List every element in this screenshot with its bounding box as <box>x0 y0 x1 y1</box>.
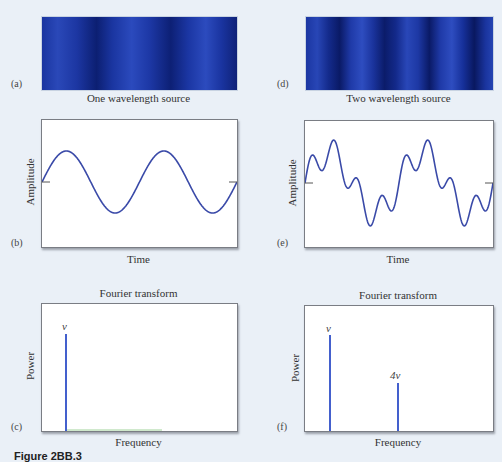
two-wavelength-interference-strip <box>305 16 494 91</box>
panel-label-f: (f) <box>277 421 287 432</box>
peak-label-4nu-f: 4ν <box>390 369 400 381</box>
single-sine-wave <box>42 120 237 247</box>
ylabel-power-c: Power <box>24 341 36 391</box>
xlabel-frequency-c: Frequency <box>41 436 236 448</box>
caption-one-wavelength: One wavelength source <box>41 92 236 104</box>
xlabel-time-b: Time <box>41 253 236 265</box>
figure-caption: Figure 2BB.3 <box>14 450 82 462</box>
spectrum-single <box>42 304 237 431</box>
caption-two-wavelength: Two wavelength source <box>305 92 492 104</box>
panel-label-c: (c) <box>11 421 22 432</box>
ylabel-power-f: Power <box>289 343 301 393</box>
title-fourier-f: Fourier transform <box>304 289 492 301</box>
title-fourier-c: Fourier transform <box>41 287 236 299</box>
peak-label-nu-f: ν <box>326 322 331 334</box>
fourier-plot-single <box>41 303 238 432</box>
panel-label-e: (e) <box>277 237 288 248</box>
panel-label-a: (a) <box>11 78 22 89</box>
panel-label-b: (b) <box>11 237 23 248</box>
peak-label-nu-c: ν <box>62 320 67 332</box>
ylabel-amplitude-e: Amplitude <box>286 153 298 213</box>
one-wavelength-interference-strip <box>41 16 238 91</box>
panel-label-d: (d) <box>277 78 289 89</box>
superposed-wave <box>305 121 493 247</box>
xlabel-time-e: Time <box>304 253 492 265</box>
amplitude-plot-single <box>41 119 238 248</box>
ylabel-amplitude-b: Amplitude <box>24 152 36 212</box>
amplitude-plot-superposition <box>304 120 494 248</box>
xlabel-frequency-f: Frequency <box>304 436 492 448</box>
